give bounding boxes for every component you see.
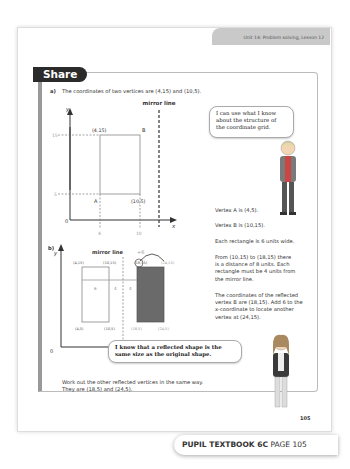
y-tick-5: 5 [54, 192, 57, 197]
label-10-5: (10,5) [104, 327, 115, 331]
boy-character-icon [272, 138, 304, 220]
vertex-b-text: Vertex B is (10,15). [215, 222, 265, 229]
label-10-15: (10,15) [103, 261, 117, 265]
unit-title: Unit 14: Problem solving, Lesson 12 [243, 35, 324, 40]
origin-label: 0 [50, 348, 53, 354]
mirror-line-label: mirror line [143, 100, 176, 106]
speech-bubble-boy: I can use what I know about the structur… [209, 106, 294, 138]
label-18-5: (18,5) [131, 327, 142, 331]
section-title: Share [33, 67, 87, 82]
girl-character-icon [266, 333, 296, 415]
label-18-15: (18,15) [134, 261, 148, 265]
bubble-line: about the structure of [216, 117, 287, 124]
distance-4-right: 4 [129, 286, 132, 291]
distance-4-left: 4 [114, 286, 117, 291]
label-4-5: (4,5) [75, 327, 84, 331]
bubble-line: the coordinate grid. [216, 124, 287, 131]
label-24-5: (24,5) [158, 327, 169, 331]
bubble-line: I know that a reflected shape is the [115, 344, 235, 351]
note-line: vertex at (24,15). [215, 314, 303, 321]
reflect-note: The coordinates of the reflected vertex … [215, 292, 303, 321]
conclusion-line: Work out the other reflected vertices in… [62, 379, 203, 386]
footer-label: PUPIL TEXTBOOK 6C PAGE 105 [174, 435, 338, 455]
point-label-10-5: (10,5) [131, 199, 146, 204]
origin-label: 0 [65, 218, 68, 224]
note-line: x-coordinate to locate another [215, 306, 303, 313]
point-label-A: A [94, 198, 98, 204]
note-line: is a distance of 8 units. Each [215, 261, 295, 268]
label-24-15: (24,15) [161, 261, 175, 265]
bubble-line: I can use what I know [216, 110, 287, 117]
y-tick-15: 15 [52, 133, 58, 138]
vertex-a-text: Vertex A is (4,5). [215, 207, 258, 214]
footer-page: PAGE 105 [270, 440, 306, 449]
plus-six-label: +6 [137, 249, 144, 255]
conclusion-text: Work out the other reflected vertices in… [62, 379, 203, 393]
note-line: The coordinates of the reflected [215, 292, 303, 299]
part-a-graph: mirror line y x 0 15 5 4 10 (4,15) B A (… [30, 95, 200, 240]
mirror-line-label: mirror line [92, 249, 123, 255]
note-line: vertex B are (18,15). Add 6 to the [215, 299, 303, 306]
speech-bubble-girl: I know that a reflected shape is the sam… [108, 340, 242, 363]
point-label-4-15: (4,15) [92, 128, 107, 133]
note-line: rectangle must be 4 units from [215, 268, 295, 275]
y-axis-label: y [65, 106, 70, 113]
conclusion-line: They are (18,5) and (24,5). [62, 386, 203, 393]
width-note: Each rectangle is 6 units wide. [215, 238, 294, 245]
bubble-line: same size as the original shape. [115, 351, 235, 358]
x-axis-label: x [171, 223, 176, 229]
note-line: From (10,15) to (18,15) there [215, 254, 295, 261]
y-axis-label: y [53, 250, 58, 257]
footer-book: PUPIL TEXTBOOK 6C [182, 440, 268, 449]
label-4-15: (4,15) [73, 261, 84, 265]
distance-note: From (10,15) to (18,15) there is a dista… [215, 254, 295, 283]
note-line: the mirror line. [215, 276, 295, 283]
point-label-B: B [142, 127, 146, 133]
page-number: 105 [300, 415, 310, 421]
unit-header-tab: Unit 14: Problem solving, Lesson 12 [212, 28, 330, 45]
